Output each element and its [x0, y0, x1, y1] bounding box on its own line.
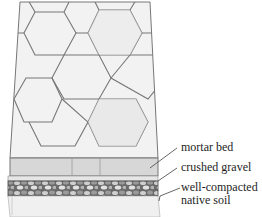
mortar-bed-layer [8, 176, 158, 181]
label-native-soil: native soil [181, 194, 231, 207]
paver-surface [0, 0, 170, 158]
label-mortar-bed: mortar bed [181, 141, 233, 154]
paver-front-face [10, 158, 158, 176]
native-soil-layer [8, 196, 160, 217]
label-crushed-gravel: crushed gravel [181, 161, 251, 174]
crushed-gravel-layer [8, 181, 158, 196]
